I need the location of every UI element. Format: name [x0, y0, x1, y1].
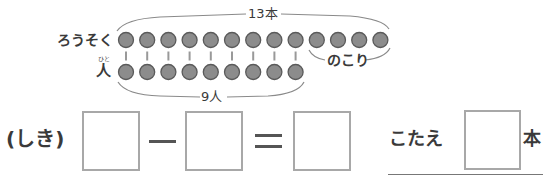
answer-box[interactable]	[464, 110, 521, 170]
candle-circle	[140, 33, 155, 48]
person-circle	[225, 65, 240, 80]
answer-underline	[388, 174, 543, 175]
candle-circle	[267, 33, 282, 48]
candle-circle	[309, 33, 324, 48]
candle-circle	[225, 33, 240, 48]
people-label: 人	[96, 64, 111, 79]
candle-circle	[373, 33, 388, 48]
people-row	[119, 65, 304, 80]
person-circle	[140, 65, 155, 80]
equation-box-3[interactable]	[293, 111, 351, 171]
candle-circle	[161, 33, 176, 48]
remaining-label: のこり	[327, 53, 369, 67]
pairing-lines	[126, 52, 296, 61]
person-circle	[119, 65, 134, 80]
candle-circle	[182, 33, 197, 48]
equals-sign-top	[255, 134, 282, 137]
candle-row	[119, 33, 388, 48]
equation-box-2[interactable]	[185, 111, 243, 171]
answer-unit: 本	[523, 130, 541, 148]
candles-label: ろうそく	[57, 33, 113, 47]
equation-prefix: (しき)	[6, 129, 64, 149]
total-count-label: 13本	[248, 7, 278, 20]
person-circle	[182, 65, 197, 80]
person-circle	[267, 65, 282, 80]
person-circle	[246, 65, 261, 80]
person-circle	[203, 65, 218, 80]
candle-circle	[352, 33, 367, 48]
candle-circle	[331, 33, 346, 48]
equals-sign-bottom	[255, 145, 282, 148]
minus-sign	[149, 140, 176, 143]
candle-circle	[288, 33, 303, 48]
people-count-label: 9人	[201, 90, 222, 103]
person-circle	[288, 65, 303, 80]
person-circle	[161, 65, 176, 80]
candle-circle	[119, 33, 134, 48]
candle-circle	[246, 33, 261, 48]
answer-label: こたえ	[389, 130, 443, 148]
candle-circle	[203, 33, 218, 48]
equation-box-1[interactable]	[82, 111, 140, 171]
